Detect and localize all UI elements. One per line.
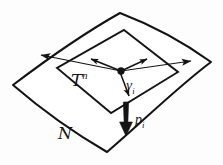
manifold-label-base: N: [58, 124, 72, 143]
normal-vector-p-label: pi: [135, 113, 144, 129]
tangent-space-label: Tn: [71, 71, 88, 89]
tangent-vector-v-label-subscript: i: [132, 86, 134, 96]
tangent-space-label-superscript: n: [82, 70, 87, 81]
tangent-vector-v-label: vi: [126, 79, 135, 95]
normal-vector-p-label-subscript: i: [142, 120, 144, 130]
figure-canvas: [0, 0, 223, 165]
manifold-label: N: [58, 126, 72, 142]
origin-point-marker: [117, 67, 124, 74]
tangent-space-label-base: T: [71, 70, 82, 90]
normal-vector-p-label-base: p: [135, 112, 142, 127]
manifold-tangent-space-figure: Tn N vi pi: [0, 0, 223, 165]
